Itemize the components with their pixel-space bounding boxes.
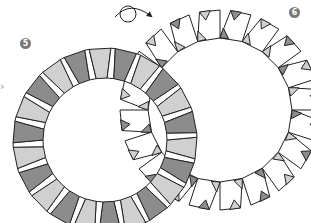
rings-illustration (0, 0, 311, 223)
step-6-badge: 6 (289, 7, 300, 18)
ring-step-5 (13, 48, 197, 223)
origami-diagram: 5 6 › (0, 0, 311, 223)
step-5-badge: 5 (20, 38, 31, 49)
ring-step-6 (120, 10, 311, 210)
turn-over-arrow-icon (115, 6, 151, 22)
side-marker-icon: › (0, 80, 4, 93)
